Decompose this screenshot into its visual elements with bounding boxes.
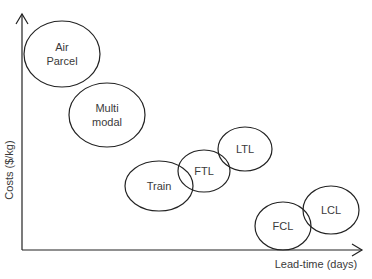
mode-label: Parcel [46,55,77,67]
mode-ellipse [69,83,145,147]
mode-label: LTL [236,143,254,155]
mode-label: LCL [321,204,341,216]
transport-modes: AirParcelMultimodalTrainFTLLTLFCLLCL [24,21,359,250]
cost-leadtime-diagram: Costs ($/kg) Lead-time (days) AirParcelM… [0,0,372,279]
mode-label: Air [55,41,69,53]
mode-ltl: LTL [218,127,272,171]
mode-label: FTL [194,165,214,177]
mode-ellipse [24,21,100,87]
mode-multimodal: Multimodal [69,83,145,147]
y-axis-label: Costs ($/kg) [3,140,15,199]
mode-label: Train [147,180,172,192]
mode-lcl: LCL [303,186,359,234]
mode-label: modal [92,116,122,128]
mode-air-parcel: AirParcel [24,21,100,87]
mode-label: Multi [95,102,118,114]
mode-label: FCL [273,220,294,232]
mode-train: Train [125,161,193,211]
x-axis-label: Lead-time (days) [275,258,358,270]
